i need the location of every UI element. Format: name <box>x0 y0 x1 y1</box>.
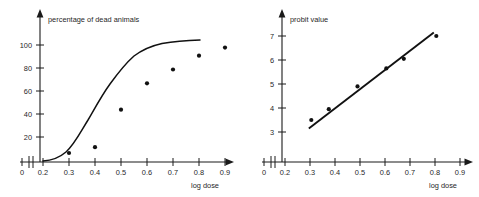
x-tick-label: 0.9 <box>455 168 465 177</box>
x-tick-label: 0.2 <box>38 168 48 177</box>
x-tick-label: 0.6 <box>380 168 390 177</box>
data-point <box>67 151 71 155</box>
y-axis-arrow-icon <box>37 9 44 18</box>
data-point <box>402 57 406 61</box>
x-tick-label: 0.9 <box>220 168 230 177</box>
y-axis-title: probit value <box>290 15 328 24</box>
y-tick-label: 20 <box>24 133 32 142</box>
x-tick-label: 0.2 <box>280 168 290 177</box>
x-tick-label: 0 <box>20 168 24 177</box>
probit-plot-svg: 7 6 5 4 3 probit value <box>240 0 479 197</box>
data-point <box>93 145 97 149</box>
x-axis-arrow-icon <box>226 159 235 166</box>
y-axis-probit <box>278 9 286 162</box>
y-tick-label: 6 <box>270 56 274 65</box>
x-axis-title: log dose <box>191 181 219 190</box>
y-tick-label: 3 <box>270 128 274 137</box>
x-tick-label: 0.4 <box>330 168 340 177</box>
chart-panel-probit: 7 6 5 4 3 probit value <box>240 0 479 197</box>
x-axis-percentage <box>20 156 234 168</box>
y-axis-arrow-icon <box>279 9 286 18</box>
y-tick-label: 7 <box>270 32 274 41</box>
x-axis-probit <box>262 156 473 168</box>
x-axis-arrow-icon <box>465 159 474 166</box>
x-axis-title: log dose <box>429 181 457 190</box>
y-tick-label: 5 <box>270 80 274 89</box>
x-tick-label: 0 <box>262 168 266 177</box>
data-point <box>171 67 175 71</box>
fitted-sigmoid-curve <box>43 40 200 161</box>
y-tick-label: 40 <box>24 110 32 119</box>
x-tick-label: 0.6 <box>142 168 152 177</box>
data-point <box>384 66 388 70</box>
data-point <box>309 118 313 122</box>
chart-panel-percentage: 100 80 60 40 20 percentage of dead anima… <box>0 0 240 197</box>
y-tick-label: 60 <box>24 87 32 96</box>
x-tick-label: 0.5 <box>355 168 365 177</box>
x-tick-label: 0.3 <box>305 168 315 177</box>
data-point <box>197 54 201 58</box>
data-point <box>434 34 438 38</box>
data-point <box>355 84 359 88</box>
x-tick-label: 0.5 <box>116 168 126 177</box>
fitted-regression-line <box>309 32 434 128</box>
percentage-plot-svg: 100 80 60 40 20 percentage of dead anima… <box>0 0 240 197</box>
y-axis-percentage <box>36 9 44 162</box>
x-tick-label: 0.8 <box>194 168 204 177</box>
x-tick-label: 0.3 <box>64 168 74 177</box>
data-point <box>145 81 149 85</box>
y-axis-title: percentage of dead animals <box>48 15 140 24</box>
x-tick-label: 0.4 <box>90 168 100 177</box>
data-point <box>119 108 123 112</box>
y-tick-label: 4 <box>270 104 274 113</box>
x-tick-label: 0.8 <box>430 168 440 177</box>
x-tick-label: 0.7 <box>168 168 178 177</box>
y-tick-label: 100 <box>20 41 32 50</box>
data-point <box>223 46 227 50</box>
data-point <box>327 107 331 111</box>
figure-container: 100 80 60 40 20 percentage of dead anima… <box>0 0 479 197</box>
y-tick-label: 80 <box>24 64 32 73</box>
x-tick-label: 0.7 <box>405 168 415 177</box>
